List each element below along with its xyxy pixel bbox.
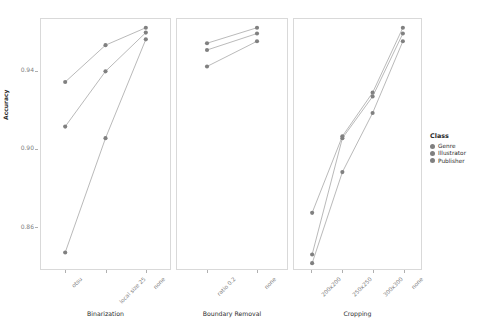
legend-swatch-genre (430, 144, 435, 149)
y-tick-mark (35, 227, 38, 228)
y-tick-label: 0.86 (8, 224, 34, 230)
y-tick-label: 0.94 (8, 67, 34, 73)
facet-plot-area-boundary-removal (177, 19, 287, 269)
data-point-genre (103, 43, 107, 47)
data-point-publisher (144, 37, 148, 41)
data-point-publisher (63, 250, 67, 254)
data-point-publisher (401, 39, 405, 43)
data-point-publisher (310, 261, 314, 265)
y-tick-mark (35, 149, 38, 150)
legend-label-genre: Genre (438, 143, 456, 149)
x-tick-mark (404, 270, 405, 273)
x-tick-mark (207, 270, 208, 273)
x-tick-mark (106, 270, 107, 273)
x-tick-label: none (410, 276, 424, 290)
series-line-illustrator (207, 34, 257, 50)
x-tick-mark (342, 270, 343, 273)
data-point-genre (63, 80, 67, 84)
legend-label-illustrator: Illustrator (438, 150, 466, 156)
series-line-genre (312, 28, 403, 213)
facet-panel-boundary-removal (176, 18, 288, 270)
facet-title-cropping: Cropping (293, 310, 422, 317)
legend-item-publisher[interactable]: Publisher (430, 158, 488, 164)
data-point-publisher (103, 136, 107, 140)
series-line-genre (207, 28, 257, 44)
data-point-illustrator (103, 69, 107, 73)
x-tick-label: 300x300 (382, 276, 404, 298)
x-tick-label: 250x250 (351, 276, 373, 298)
legend-item-illustrator[interactable]: Illustrator (430, 150, 488, 156)
data-point-publisher (255, 39, 259, 43)
x-tick-label: 200x200 (321, 276, 343, 298)
x-tick-label: otsu (70, 276, 83, 289)
y-tick-label: 0.90 (8, 145, 34, 151)
x-tick-label: none (264, 276, 278, 290)
data-point-genre (255, 26, 259, 30)
data-point-illustrator (401, 31, 405, 35)
facet-plot-area-binarization (41, 19, 170, 269)
legend-swatch-publisher (430, 158, 435, 163)
legend-title: Class (430, 132, 488, 140)
legend-swatch-illustrator (430, 151, 435, 156)
series-line-publisher (312, 41, 403, 263)
legend: Class Genre Illustrator Publisher (430, 132, 488, 165)
x-tick-label: ratio 0.2 (215, 276, 236, 297)
accuracy-faceted-line-chart: Accuracy 0.940.900.86 Binarization Bound… (0, 0, 488, 332)
data-point-genre (144, 26, 148, 30)
data-point-illustrator (144, 30, 148, 34)
data-point-illustrator (371, 94, 375, 98)
y-axis-tick-group: 0.940.900.86 (0, 0, 34, 332)
x-tick-mark (65, 270, 66, 273)
x-tick-mark (311, 270, 312, 273)
data-point-illustrator (255, 31, 259, 35)
facet-plot-area-cropping (294, 19, 421, 269)
data-point-genre (310, 211, 314, 215)
facet-title-binarization: Binarization (40, 310, 171, 317)
x-tick-label: none (153, 276, 167, 290)
data-point-illustrator (310, 252, 314, 256)
data-point-illustrator (340, 136, 344, 140)
data-point-genre (401, 26, 405, 30)
x-tick-mark (257, 270, 258, 273)
x-tick-mark (146, 270, 147, 273)
facet-panel-binarization (40, 18, 171, 270)
legend-label-publisher: Publisher (438, 158, 465, 164)
data-point-illustrator (63, 124, 67, 128)
legend-item-genre[interactable]: Genre (430, 143, 488, 149)
data-point-publisher (371, 111, 375, 115)
data-point-illustrator (205, 48, 209, 52)
x-tick-mark (373, 270, 374, 273)
data-point-genre (205, 41, 209, 45)
data-point-publisher (340, 170, 344, 174)
facet-title-boundary-removal: Boundary Removal (176, 310, 288, 317)
facet-panel-cropping (293, 18, 422, 270)
y-tick-mark (35, 71, 38, 72)
x-tick-label: local size 25 (118, 276, 147, 305)
series-line-genre (65, 28, 146, 82)
data-point-publisher (205, 64, 209, 68)
series-line-publisher (207, 41, 257, 66)
